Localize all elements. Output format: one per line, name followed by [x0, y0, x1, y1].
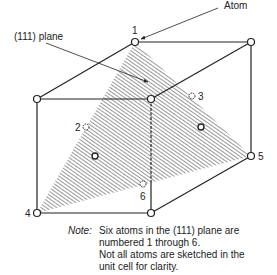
atom-front-top-right — [148, 96, 155, 103]
atom-right-face-center — [198, 124, 204, 130]
atom-back-top-right — [248, 39, 255, 46]
atom-front-bottom-right — [148, 210, 155, 217]
atom-front-top-left — [34, 96, 41, 103]
atom-label-3: 3 — [198, 91, 204, 102]
note-line: unit cell for clarity. — [99, 261, 277, 273]
note-body: Six atoms in the (111) plane are numbere… — [99, 225, 277, 273]
atom-3 — [189, 93, 195, 99]
atom-label-1: 1 — [132, 25, 138, 36]
note-line: Not all atoms are sketched in the — [99, 249, 277, 261]
atom-label-5: 5 — [258, 151, 264, 162]
atom-1 — [132, 39, 139, 46]
note-line: numbered 1 through 6. — [99, 237, 277, 249]
atom-callout-arrow — [141, 8, 218, 39]
atom-label-4: 4 — [25, 208, 31, 219]
atom-4 — [34, 210, 41, 217]
note-line: Six atoms in the (111) plane are — [99, 225, 277, 237]
atom-label-6: 6 — [140, 191, 146, 202]
note-key: Note: — [68, 225, 92, 237]
atom-callout-label: Atom — [224, 0, 247, 11]
atom-front-face-center — [92, 153, 98, 159]
atom-2 — [83, 124, 89, 130]
plane-callout-label: (111) plane — [14, 31, 64, 42]
atom-6 — [140, 181, 146, 187]
atom-5 — [248, 153, 255, 160]
atom-label-2: 2 — [75, 122, 81, 133]
